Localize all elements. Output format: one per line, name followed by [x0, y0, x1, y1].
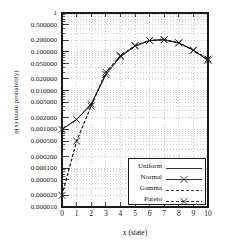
x-tick-label: 0 [60, 210, 64, 218]
legend-line-sample [165, 160, 203, 171]
legend-line-sample [165, 193, 203, 204]
x-tick-label: 6 [148, 210, 152, 218]
x-tick-label: 1 [75, 210, 79, 218]
x-tick-label: 4 [119, 210, 123, 218]
x-tick-label: 3 [104, 210, 108, 218]
x-tick-label: 7 [162, 210, 166, 218]
legend-label: Normal [131, 173, 165, 181]
x-tick-label: 5 [133, 210, 137, 218]
chart-figure: p(x) (state probability) 10.5000000.2000… [0, 0, 228, 247]
x-tick-label: 2 [89, 210, 93, 218]
legend-item-uniform: Uniform [131, 160, 203, 171]
x-tick-label: 9 [192, 210, 196, 218]
x-tick-label: 10 [204, 210, 212, 218]
legend-label: Gamma [131, 184, 165, 192]
legend-line-sample [165, 171, 203, 182]
chart-legend: UniformNormalGammaPareto [128, 158, 206, 205]
x-axis-label: x (state) [62, 228, 208, 237]
x-tick-label: 8 [177, 210, 181, 218]
legend-item-gamma: Gamma [131, 182, 203, 193]
legend-item-pareto: Pareto [131, 193, 203, 204]
legend-label: Uniform [131, 162, 165, 170]
legend-item-normal: Normal [131, 171, 203, 182]
legend-label: Pareto [131, 195, 165, 203]
legend-line-sample [165, 182, 203, 193]
